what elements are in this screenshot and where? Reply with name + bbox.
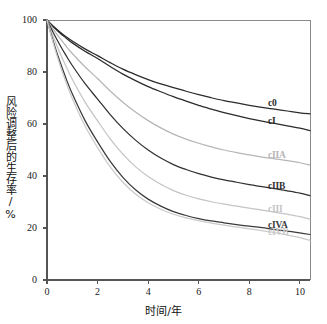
x-tick-label: 4 [138, 286, 158, 297]
plot-area [0, 0, 327, 324]
series-label-c0: c0 [268, 98, 277, 108]
series-line-cIIA [47, 20, 310, 165]
series-label-cIVB: cIVB [268, 227, 288, 237]
series-line-cI [47, 20, 310, 131]
x-tick-label: 0 [37, 286, 57, 297]
y-tick-label: 100 [11, 14, 37, 25]
x-axis-title: 时间/年 [0, 302, 327, 318]
y-tick-label: 0 [11, 274, 37, 285]
x-tick-label: 6 [189, 286, 209, 297]
series-line-cIIB [47, 20, 310, 196]
series-label-cI: cI [268, 116, 276, 126]
series-label-cIIB: cIIB [268, 181, 285, 191]
y-tick-label: 80 [11, 66, 37, 77]
x-tick-label: 2 [88, 286, 108, 297]
x-tick-label: 10 [290, 286, 310, 297]
y-tick-label: 40 [11, 170, 37, 181]
y-tick-label: 20 [11, 222, 37, 233]
series-label-cIII: cIII [268, 204, 283, 214]
survival-curve-chart: 风险调整后的生存率/% 时间/年 0204060801000246810 c0c… [0, 0, 327, 324]
x-tick-label: 8 [239, 286, 259, 297]
series-label-cIIA: cIIA [268, 150, 286, 160]
y-tick-label: 60 [11, 118, 37, 129]
